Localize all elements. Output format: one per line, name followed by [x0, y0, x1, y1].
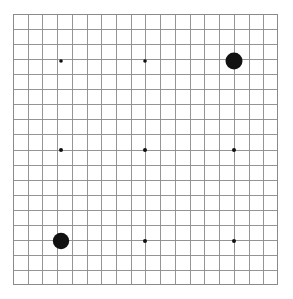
figure-canvas [0, 0, 293, 299]
grid-and-points-svg [13, 14, 278, 285]
scatter-point-p7 [53, 233, 69, 249]
grid-panel [13, 14, 278, 285]
scatter-point-p3 [226, 53, 243, 70]
scatter-point-p4 [59, 148, 63, 152]
scatter-point-p1 [59, 59, 63, 63]
scatter-point-p6 [232, 148, 236, 152]
scatter-point-p2 [143, 59, 147, 63]
scatter-point-p8 [143, 239, 147, 243]
scatter-point-p9 [232, 239, 236, 243]
scatter-point-p5 [143, 148, 147, 152]
